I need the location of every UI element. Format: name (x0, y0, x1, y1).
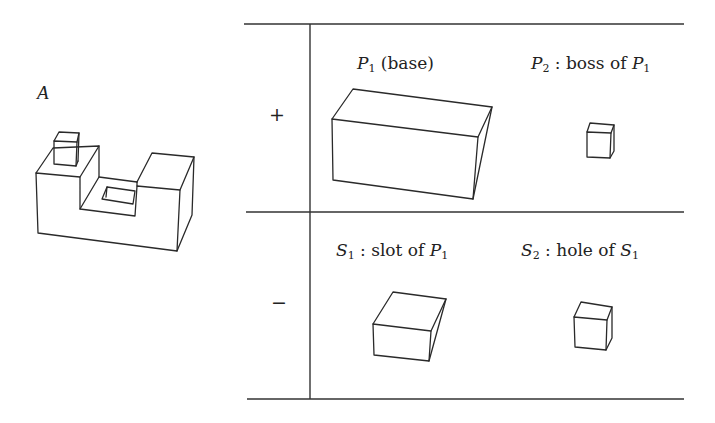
feature-description: : hole of (540, 240, 621, 260)
s2-hole-label: S2 : hole of S1 (521, 242, 639, 261)
reference-symbol: P (430, 240, 441, 260)
object-a-label: A (37, 83, 49, 102)
feature-subscript: 2 (533, 249, 540, 262)
reference-subscript: 1 (643, 62, 650, 75)
feature-symbol: S (521, 240, 533, 260)
reference-subscript: 1 (441, 249, 448, 262)
p1-base-label: P1 (base) (357, 55, 434, 74)
reference-symbol: S (620, 240, 632, 260)
p1-base-box-drawing (332, 89, 492, 199)
feature-description: : slot of (355, 240, 430, 260)
s1-slot-box-drawing (373, 292, 446, 361)
reference-symbol: P (632, 53, 643, 73)
feature-description: : boss of (549, 53, 631, 73)
feature-decomposition-figure: A + − P1 (base) P2 : boss of P1 S1 : slo… (0, 0, 715, 423)
p2-boss-cube-drawing (587, 123, 614, 158)
negative-row-sign: − (271, 293, 287, 312)
feature-description: (base) (375, 53, 433, 73)
positive-row-sign: + (269, 105, 285, 124)
feature-subscript: 1 (348, 249, 355, 262)
feature-symbol: P (357, 53, 368, 73)
feature-symbol: S (336, 240, 348, 260)
object-a-drawing (36, 132, 194, 251)
p2-boss-label: P2 : boss of P1 (531, 55, 650, 74)
s2-hole-cube-drawing (574, 302, 612, 350)
feature-symbol: P (531, 53, 542, 73)
s1-slot-label: S1 : slot of P1 (336, 242, 448, 261)
reference-subscript: 1 (632, 249, 639, 262)
